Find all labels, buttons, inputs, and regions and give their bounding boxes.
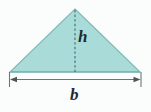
- arrowhead-left-icon: [10, 77, 17, 82]
- height-label: h: [78, 28, 87, 45]
- base-label: b: [70, 86, 79, 103]
- arrowhead-right-icon: [134, 77, 141, 82]
- triangle-area-figure: h b: [0, 0, 151, 112]
